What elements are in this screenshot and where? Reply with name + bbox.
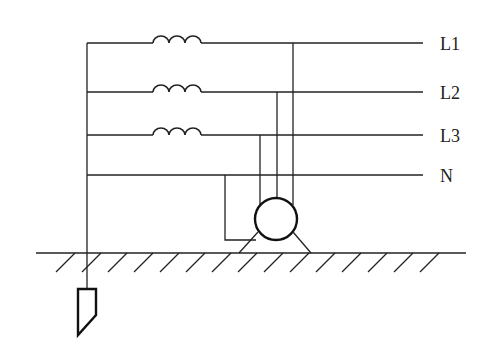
line-l3: L3	[87, 126, 460, 146]
line-l1: L1	[87, 34, 460, 54]
label-n: N	[440, 166, 453, 186]
neutral-to-enclosure	[225, 175, 256, 240]
label-l1: L1	[440, 34, 460, 54]
label-l3: L3	[440, 126, 460, 146]
inductor-icon	[153, 128, 201, 135]
motor-icon	[255, 198, 297, 240]
line-l2: L2	[87, 83, 460, 103]
ground-surface	[36, 253, 466, 272]
schematic-diagram: L1 L2 L3 N	[0, 0, 494, 363]
line-n: N	[87, 166, 453, 186]
motor-support-left	[239, 232, 258, 253]
inductor-icon	[153, 85, 201, 92]
motor-support-right	[293, 232, 311, 253]
label-l2: L2	[440, 83, 460, 103]
ground-electrode-icon	[78, 289, 96, 335]
inductor-icon	[153, 36, 201, 43]
